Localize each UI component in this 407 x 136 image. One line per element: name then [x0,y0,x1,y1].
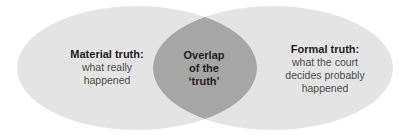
right-set-label: Formal truth: what the court decides pro… [270,43,380,95]
left-set-line: what really [52,61,162,74]
left-set-label: Material truth: what really happened [52,48,162,87]
right-set-line: decides probably [270,69,380,82]
overlap-label: Overlap of the ‘truth’ [174,49,234,88]
right-set-line: happened [270,82,380,95]
left-set-title: Material truth: [52,48,162,61]
right-set-line: what the court [270,56,380,69]
right-set-title: Formal truth: [270,43,380,56]
left-set-line: happened [52,74,162,87]
overlap-line: of the [174,62,234,75]
overlap-line: Overlap [174,49,234,62]
overlap-line: ‘truth’ [174,75,234,88]
